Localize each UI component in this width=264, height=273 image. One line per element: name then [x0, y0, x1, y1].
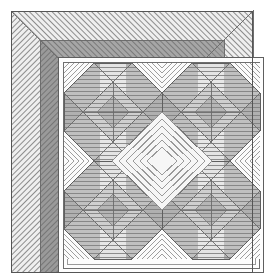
quilt-pattern-figure: Quilt block pattern with mitered double …	[0, 0, 264, 273]
quilt-pattern-canvas: Quilt block pattern with mitered double …	[0, 0, 264, 273]
center-panel	[58, 57, 264, 273]
